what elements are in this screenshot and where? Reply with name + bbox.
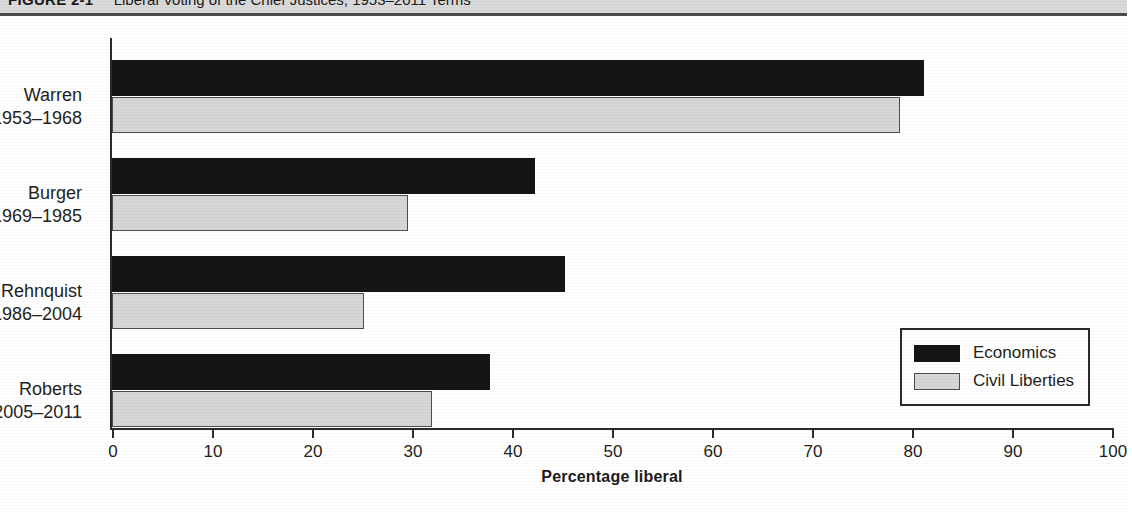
bar-civil-liberties[interactable] [112,391,432,427]
figure-caption: FIGURE 2-1 Liberal Voting of the Chief J… [8,0,471,8]
bar-chart: 0 10 20 30 40 50 60 70 80 90 100 Warren … [0,16,1127,512]
category-name: Roberts [19,379,82,399]
category-name: Rehnquist [1,281,82,301]
category-years: 1986–2004 [0,303,82,326]
category-years: 2005–2011 [0,401,82,424]
legend-swatch-economics [914,345,960,362]
legend-item-economics[interactable]: Economics [914,339,1074,367]
x-tick-label: 40 [483,442,543,462]
legend-swatch-civil-liberties [914,373,960,390]
x-tick [912,428,914,438]
category-label: Rehnquist 1986–2004 [0,280,82,326]
category-label: Warren 1953–1968 [0,84,82,130]
figure-caption-bar: FIGURE 2-1 Liberal Voting of the Chief J… [0,0,1127,13]
x-tick-label: 80 [883,442,943,462]
x-tick-label: 0 [83,442,143,462]
x-tick [1112,428,1114,438]
x-tick [612,428,614,438]
category-years: 1953–1968 [0,107,82,130]
x-tick [1012,428,1014,438]
bar-economics[interactable] [112,60,924,96]
legend-item-civil-liberties[interactable]: Civil Liberties [914,367,1074,395]
x-tick [212,428,214,438]
figure-title: Liberal Voting of the Chief Justices, 19… [114,0,471,8]
x-tick [312,428,314,438]
legend-label: Civil Liberties [973,371,1074,391]
figure-number: FIGURE 2-1 [8,0,94,8]
x-axis-title: Percentage liberal [112,468,1112,486]
bar-economics[interactable] [112,256,565,292]
x-tick [112,428,114,438]
x-axis-line [110,428,1112,430]
x-tick-label: 50 [583,442,643,462]
bar-economics[interactable] [112,354,490,390]
x-tick-label: 60 [683,442,743,462]
category-label: Burger 1969–1985 [0,182,82,228]
category-label: Roberts 2005–2011 [0,378,82,424]
x-tick-label: 90 [983,442,1043,462]
x-tick [812,428,814,438]
bar-economics[interactable] [112,158,535,194]
bar-civil-liberties[interactable] [112,195,408,231]
x-tick-label: 20 [283,442,343,462]
x-tick-label: 30 [383,442,443,462]
x-tick [412,428,414,438]
x-tick [512,428,514,438]
legend: Economics Civil Liberties [900,328,1090,406]
bar-civil-liberties[interactable] [112,97,900,133]
category-name: Burger [28,183,82,203]
bar-civil-liberties[interactable] [112,293,364,329]
category-years: 1969–1985 [0,205,82,228]
x-tick [712,428,714,438]
x-tick-label: 100 [1083,442,1132,462]
x-tick-label: 10 [183,442,243,462]
x-tick-label: 70 [783,442,843,462]
category-name: Warren [24,85,82,105]
legend-label: Economics [973,343,1056,363]
